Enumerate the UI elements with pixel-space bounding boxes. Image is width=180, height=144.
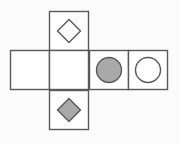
diagram-canvas bbox=[0, 0, 180, 144]
net-square-row-left-2 bbox=[50, 51, 89, 90]
cube-net-figure bbox=[0, 0, 180, 144]
circle-shape-gray bbox=[97, 58, 122, 83]
net-square-row-left-1 bbox=[11, 51, 50, 90]
circle-shape-white bbox=[136, 58, 161, 83]
